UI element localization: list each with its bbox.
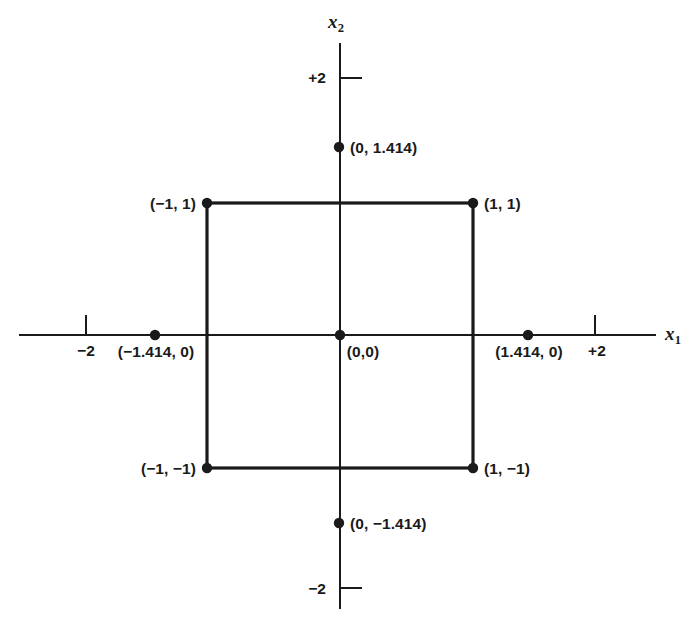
- point-label-minus1p414-0: (−1.414, 0): [118, 344, 195, 360]
- x-axis-label-subscript: 1: [675, 333, 681, 347]
- x-tick-label-minus-2: −2: [77, 343, 95, 359]
- point-minus1-minus1: [202, 463, 212, 473]
- point-label-0-1p414: (0, 1.414): [350, 140, 417, 156]
- y-axis-label: x2: [328, 12, 344, 31]
- y-tick-label-plus-2: +2: [308, 70, 326, 86]
- y-tick-label-minus-2: −2: [308, 581, 326, 597]
- point-label-center-origin: (0,0): [347, 344, 379, 360]
- point-label-1p414-0: (1.414, 0): [495, 344, 562, 360]
- point-label-minus1-minus1: (−1, −1): [141, 461, 196, 477]
- plot-canvas: [0, 0, 694, 622]
- point-1-minus1: [468, 463, 478, 473]
- point-1p414-0: [523, 330, 533, 340]
- x-tick-label-plus-2: +2: [588, 343, 606, 359]
- y-axis-label-subscript: 2: [338, 21, 344, 35]
- point-1-1: [468, 198, 478, 208]
- point-minus1p414-0: [150, 330, 160, 340]
- x-axis-label-text: x: [665, 323, 675, 344]
- point-0-minus1p414: [334, 518, 344, 528]
- point-label-1-minus1: (1, −1): [484, 461, 530, 477]
- point-label-0-minus1p414: (0, −1.414): [350, 516, 427, 532]
- point-center-origin: [335, 330, 345, 340]
- x-axis-label: x1: [665, 324, 681, 343]
- point-label-1-1: (1, 1): [484, 196, 521, 212]
- point-label-minus1-1: (−1, 1): [150, 196, 196, 212]
- coordinate-diagram: x2 x1 −2 +2 +2 −2 (−1, 1) (1, 1) (−1, −1…: [0, 0, 694, 622]
- y-axis-label-text: x: [328, 11, 338, 32]
- point-0-1p414: [334, 142, 344, 152]
- point-minus1-1: [202, 198, 212, 208]
